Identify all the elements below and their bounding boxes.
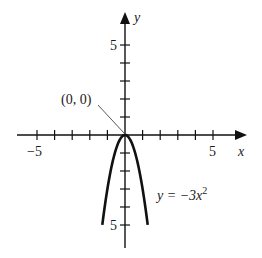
x-tick-label-neg5: −5 xyxy=(27,144,42,159)
vertex-label: (0, 0) xyxy=(61,92,92,108)
y-axis-label: y xyxy=(132,10,141,25)
y-tick-label-5: 5 xyxy=(110,38,117,53)
x-axis-label: x xyxy=(237,144,245,159)
parabola-chart: y x −5 5 5 5 (0, 0) y = −3x2 xyxy=(0,0,262,258)
equation-main: y = −3x xyxy=(155,188,203,203)
y-axis-arrow-icon xyxy=(120,12,130,24)
equation-label: y = −3x2 xyxy=(155,185,207,203)
equation-exponent: 2 xyxy=(202,185,207,196)
x-axis-arrow-icon xyxy=(235,130,247,140)
y-tick-label-neg5: 5 xyxy=(110,218,117,233)
x-tick-label-5: 5 xyxy=(209,144,216,159)
vertex-leader-line xyxy=(98,105,124,133)
